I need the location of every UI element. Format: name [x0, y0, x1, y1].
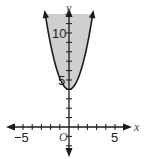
- origin-label: O: [59, 130, 68, 144]
- x-axis-label: x: [133, 120, 140, 134]
- inequality-graph: y x O −5 5 5 10: [0, 0, 148, 159]
- x-tick-label-neg5: −5: [14, 130, 29, 145]
- y-tick-label-10: 10: [52, 26, 66, 41]
- y-axis-label: y: [65, 1, 72, 15]
- x-tick-label-5: 5: [111, 130, 118, 145]
- y-tick-label-5: 5: [58, 73, 65, 88]
- y-axis-arrow-down: [66, 148, 73, 157]
